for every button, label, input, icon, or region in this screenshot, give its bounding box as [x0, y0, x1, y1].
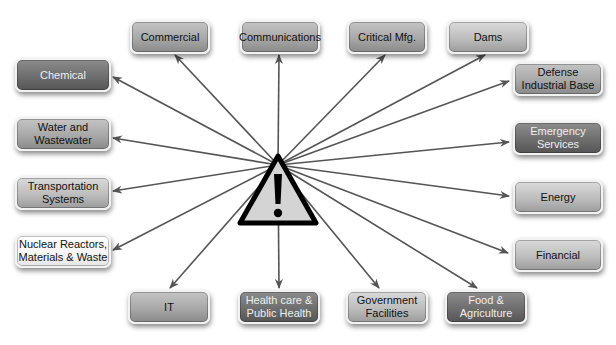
sector-label: Health care & Public Health: [246, 294, 313, 320]
sector-node-food: Food & Agriculture: [445, 290, 527, 324]
sector-label: Water and Wastewater: [34, 121, 92, 147]
sector-node-it: IT: [128, 290, 210, 324]
sector-node-critical-mfg: Critical Mfg.: [347, 20, 427, 54]
arrow-to-communications: [278, 55, 279, 165]
infrastructure-sectors-diagram: CommercialCommunicationsCritical Mfg.Dam…: [0, 0, 616, 345]
arrow-to-critical-mfg: [278, 55, 385, 165]
sector-label: IT: [164, 301, 174, 314]
sector-label: Commercial: [141, 31, 200, 44]
sector-node-dams: Dams: [447, 20, 529, 54]
sector-label: Critical Mfg.: [358, 31, 416, 44]
sector-node-chemical: Chemical: [15, 58, 111, 92]
arrow-to-dams: [278, 55, 485, 165]
sector-node-healthcare: Health care & Public Health: [238, 290, 320, 324]
sector-label: Communications: [239, 31, 321, 44]
sector-node-government: Government Facilities: [346, 290, 428, 324]
sector-label: Government Facilities: [357, 294, 418, 320]
arrow-to-commercial: [175, 55, 278, 165]
sector-node-energy: Energy: [513, 180, 603, 214]
sector-label: Energy: [541, 191, 576, 204]
sector-label: Dams: [474, 31, 503, 44]
sector-label: Defense Industrial Base: [522, 66, 595, 92]
sector-label: Financial: [536, 249, 580, 262]
sector-node-nuclear: Nuclear Reactors, Materials & Waste: [15, 234, 111, 268]
warning-triangle-icon: [236, 152, 320, 227]
sector-label: Food & Agriculture: [460, 294, 513, 320]
sector-label: Chemical: [40, 69, 86, 82]
sector-node-water: Water and Wastewater: [15, 117, 111, 151]
sector-node-emergency: Emergency Services: [513, 121, 603, 155]
sector-node-financial: Financial: [513, 238, 603, 272]
sector-label: Nuclear Reactors, Materials & Waste: [19, 238, 108, 264]
sector-node-transportation: Transportation Systems: [15, 176, 111, 210]
sector-node-defense: Defense Industrial Base: [513, 62, 603, 96]
sector-label: Transportation Systems: [28, 180, 99, 206]
sector-label: Emergency Services: [530, 125, 586, 151]
sector-node-communications: Communications: [240, 20, 320, 54]
sector-node-commercial: Commercial: [130, 20, 210, 54]
